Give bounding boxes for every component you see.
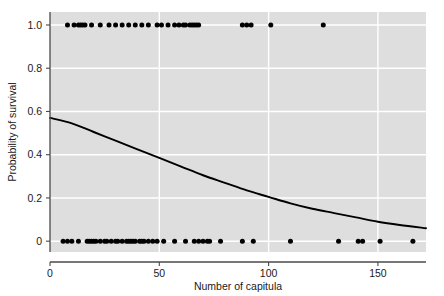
data-point [115, 239, 120, 244]
y-tick-label: 0.2 [27, 192, 42, 204]
y-tick-label: 0 [36, 235, 42, 247]
data-point [69, 239, 74, 244]
data-point [360, 239, 365, 244]
data-point [244, 22, 249, 27]
x-tick-label: 0 [47, 267, 53, 279]
data-point [192, 239, 197, 244]
data-point [161, 239, 166, 244]
data-point [268, 22, 273, 27]
data-point [76, 239, 81, 244]
plot-panel-background [50, 12, 426, 252]
data-point [249, 22, 254, 27]
data-point [72, 22, 77, 27]
x-tick-label: 100 [260, 267, 278, 279]
x-tick-label: 50 [153, 267, 165, 279]
data-point [196, 239, 201, 244]
y-tick-label: 0.6 [27, 105, 42, 117]
data-point [172, 22, 177, 27]
data-point [61, 239, 66, 244]
data-point [166, 22, 171, 27]
data-point [218, 239, 223, 244]
data-point [126, 22, 131, 27]
chart-canvas: 00.20.40.60.81.0 050100150 Probability o… [0, 0, 444, 296]
data-point [336, 239, 341, 244]
data-point [65, 239, 70, 244]
data-point [321, 22, 326, 27]
data-point [201, 239, 206, 244]
data-point [159, 22, 164, 27]
data-point [65, 22, 70, 27]
data-point [139, 22, 144, 27]
x-axis-title: Number of capitula [194, 280, 282, 292]
data-point [155, 239, 160, 244]
data-point [104, 239, 109, 244]
data-point [410, 239, 415, 244]
data-point [288, 239, 293, 244]
data-point [207, 239, 212, 244]
y-tick-label: 1.0 [27, 19, 42, 31]
data-point [82, 22, 87, 27]
data-point [183, 239, 188, 244]
y-tick-label: 0.4 [27, 148, 42, 160]
data-point [150, 239, 155, 244]
data-point [89, 22, 94, 27]
data-point [172, 239, 177, 244]
data-point [120, 22, 125, 27]
data-point [107, 22, 112, 27]
data-point [251, 239, 256, 244]
data-point [155, 22, 160, 27]
data-point [240, 239, 245, 244]
x-tick-label: 150 [369, 267, 387, 279]
data-point [378, 239, 383, 244]
data-point [98, 22, 103, 27]
data-point [113, 22, 118, 27]
data-point [133, 239, 138, 244]
data-point [133, 22, 138, 27]
data-point [196, 22, 201, 27]
data-point [183, 22, 188, 27]
logistic-regression-figure: 00.20.40.60.81.0 050100150 Probability o… [0, 0, 444, 296]
data-point [146, 22, 151, 27]
y-tick-label: 0.8 [27, 62, 42, 74]
data-point [109, 239, 114, 244]
data-point [146, 239, 151, 244]
data-point [240, 22, 245, 27]
data-point [142, 239, 147, 244]
data-point [120, 239, 125, 244]
data-point [356, 239, 361, 244]
y-axis-title: Probability of survival [6, 82, 18, 181]
y-axis-tick-labels: 00.20.40.60.81.0 [27, 19, 42, 247]
data-point [176, 22, 181, 27]
data-point [98, 239, 103, 244]
data-point [93, 239, 98, 244]
x-axis-tick-labels: 050100150 [47, 267, 387, 279]
